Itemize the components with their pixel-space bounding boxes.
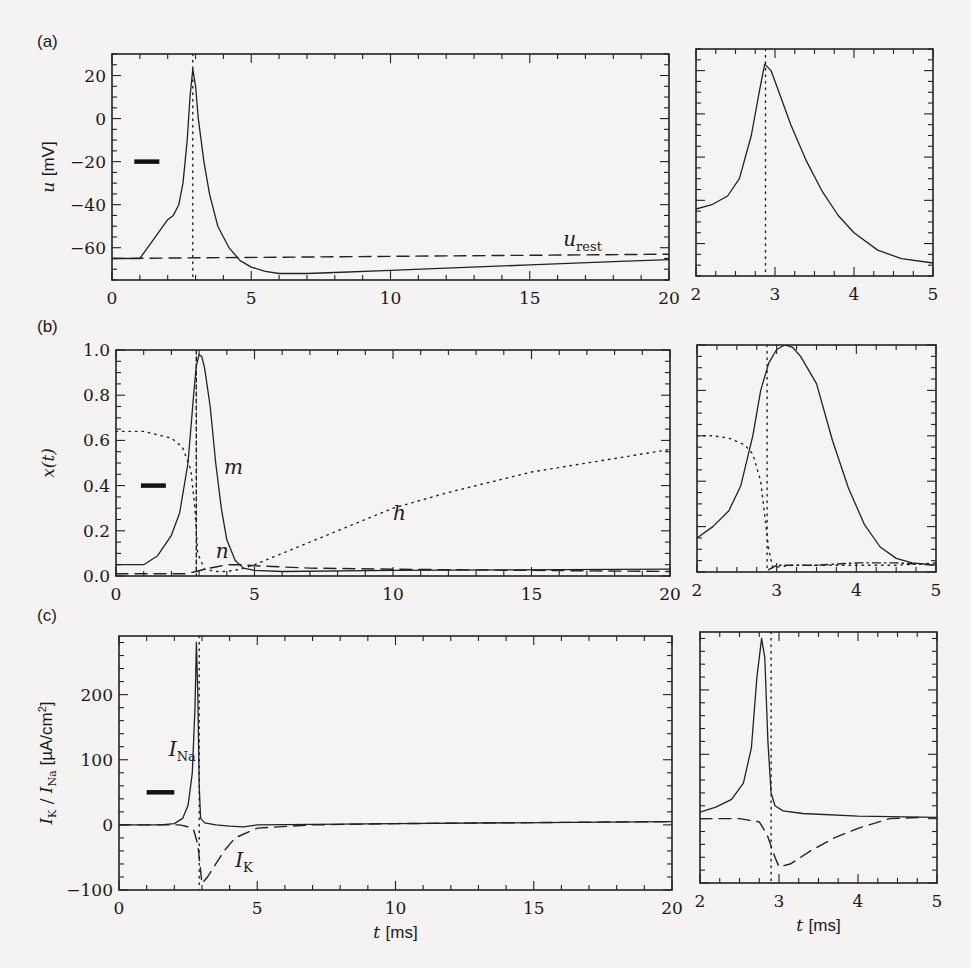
x-tick-label: 3 — [774, 891, 785, 911]
x-axis-label: t [ms] — [796, 915, 840, 935]
annotation-m: m — [224, 455, 243, 479]
x-tick-label: 4 — [851, 580, 862, 600]
chart-a-right: 2345 — [691, 49, 939, 304]
x-tick-label: 2 — [695, 891, 706, 911]
y-tick-label: −60 — [70, 238, 106, 258]
x-tick-label: 10 — [382, 584, 404, 604]
y-axis-label: u [mV] — [38, 141, 58, 192]
y-axis-label: IK / INa [µA/cm2] — [36, 701, 59, 825]
x-tick-label: 5 — [931, 580, 942, 600]
annotation-h: h — [393, 501, 406, 525]
x-tick-label: 0 — [111, 584, 122, 604]
x-tick-label: 3 — [771, 580, 782, 600]
x-tick-label: 15 — [521, 584, 543, 604]
x-tick-label: 15 — [523, 898, 545, 918]
x-tick-label: 10 — [385, 898, 407, 918]
figure: (a) (b) (c) 05101520200−20−40−60u [mV]ur… — [0, 0, 971, 968]
x-axis-label: t [ms] — [373, 922, 417, 942]
x-tick-label: 20 — [661, 898, 683, 918]
x-tick-label: 5 — [246, 288, 257, 308]
y-tick-label: 200 — [81, 685, 113, 705]
x-tick-label: 0 — [114, 898, 125, 918]
plot-frame — [696, 49, 933, 276]
y-tick-label: −20 — [70, 152, 106, 172]
y-tick-label: 1.0 — [83, 340, 110, 360]
x-tick-label: 5 — [252, 898, 263, 918]
y-axis-label: x(t) — [38, 448, 58, 478]
x-tick-label: 15 — [519, 288, 541, 308]
chart-c-left: 051015202001000−100IK / INa [µA/cm2]t [m… — [36, 636, 683, 942]
y-tick-label: 0.8 — [83, 385, 110, 405]
y-tick-label: 100 — [81, 750, 113, 770]
plots-canvas: 05101520200−20−40−60u [mV]urest234505101… — [0, 0, 971, 968]
chart-c-right: 2345t [ms] — [695, 632, 943, 935]
y-tick-label: −40 — [70, 195, 106, 215]
x-tick-label: 20 — [658, 288, 680, 308]
plot-frame — [700, 632, 937, 883]
y-tick-label: −100 — [66, 880, 113, 900]
y-tick-label: 0.4 — [83, 476, 110, 496]
x-tick-label: 2 — [692, 580, 703, 600]
x-tick-label: 20 — [659, 584, 681, 604]
x-tick-label: 0 — [107, 288, 118, 308]
plot-frame — [697, 345, 936, 572]
y-tick-label: 0.2 — [83, 521, 110, 541]
x-tick-label: 5 — [249, 584, 260, 604]
y-tick-label: 0 — [102, 815, 113, 835]
x-tick-label: 10 — [380, 288, 402, 308]
y-tick-label: 20 — [84, 66, 106, 86]
plot-frame — [116, 350, 670, 576]
x-tick-label: 5 — [932, 891, 943, 911]
x-tick-label: 4 — [849, 284, 860, 304]
annotation-n: n — [216, 539, 229, 563]
y-tick-label: 0.0 — [83, 566, 110, 586]
plot-frame — [119, 636, 672, 890]
x-tick-label: 4 — [853, 891, 864, 911]
y-tick-label: 0.6 — [83, 430, 110, 450]
chart-b-right: 2345 — [692, 345, 942, 600]
x-tick-label: 5 — [928, 284, 939, 304]
x-tick-label: 2 — [691, 284, 702, 304]
chart-a-left: 05101520200−20−40−60u [mV]urest — [38, 54, 680, 308]
y-tick-label: 0 — [95, 109, 106, 129]
chart-b-left: 051015200.00.20.40.60.81.0x(t)mhn — [38, 340, 681, 604]
x-tick-label: 3 — [770, 284, 781, 304]
